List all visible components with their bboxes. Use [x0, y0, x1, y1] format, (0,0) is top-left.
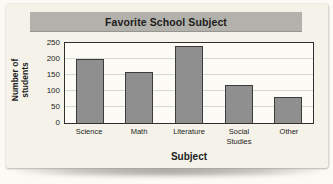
y-tick-label: 150: [30, 70, 60, 80]
y-tick-label: 100: [30, 86, 60, 96]
x-tick-slot: Social Studies: [214, 127, 264, 147]
bar-slot: [214, 43, 264, 123]
scanned-page: Favorite School Subject Number of studen…: [0, 0, 333, 184]
x-tick-label: Other: [280, 127, 299, 137]
chart-title: Favorite School Subject: [105, 16, 227, 28]
y-tick-label: 0: [30, 118, 60, 128]
y-tick-label: 50: [30, 102, 60, 112]
x-tick-slot: Math: [114, 127, 164, 137]
bar-social-studies: [225, 85, 253, 123]
x-tick-label: Social Studies: [217, 127, 261, 147]
bars: [65, 43, 313, 123]
bar-slot: [115, 43, 165, 123]
y-tick-label: 250: [30, 38, 60, 48]
bar-slot: [65, 43, 115, 123]
y-tick-label: 200: [30, 54, 60, 64]
x-tick-slot: Literature: [164, 127, 214, 137]
page-scan-shadow: [16, 167, 320, 177]
x-tick-slot: Science: [64, 127, 114, 137]
x-tick-labels: ScienceMathLiteratureSocial StudiesOther: [64, 127, 314, 147]
bar-slot: [263, 43, 313, 123]
bar-math: [125, 72, 153, 123]
x-tick-slot: Other: [264, 127, 314, 137]
x-tick-label: Science: [76, 127, 103, 137]
plot-area: [64, 42, 314, 124]
x-axis-title: Subject: [64, 151, 314, 162]
bar-other: [274, 97, 302, 123]
bar-literature: [175, 46, 203, 123]
chart-card: Favorite School Subject Number of studen…: [6, 4, 328, 168]
x-tick-label: Math: [131, 127, 148, 137]
chart-title-bar: Favorite School Subject: [30, 12, 302, 32]
bar-science: [76, 59, 104, 123]
bar-slot: [164, 43, 214, 123]
x-tick-label: Literature: [173, 127, 205, 137]
